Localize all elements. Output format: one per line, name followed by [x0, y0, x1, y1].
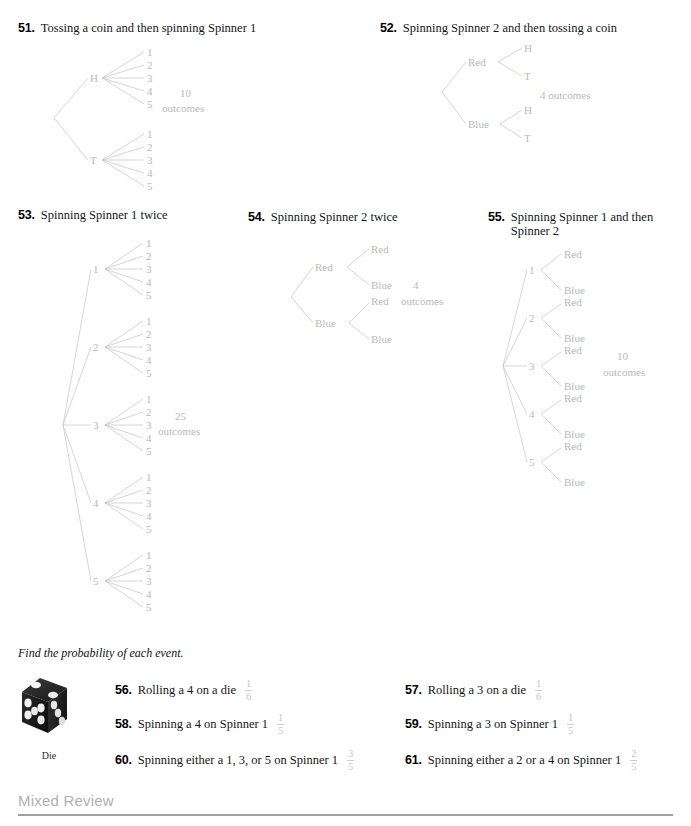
branch-line — [442, 92, 466, 124]
branch-line — [54, 118, 88, 160]
branch-line — [54, 78, 88, 118]
exercise-58: 58.Spinning a 4 on Spinner 115 — [115, 712, 285, 736]
leaf-label: Red — [371, 243, 389, 255]
footer-section-title: Mixed Review — [18, 792, 114, 809]
node-label: 4 — [93, 497, 99, 509]
leaf-label: 4 — [146, 354, 152, 366]
leaf-label: 2 — [146, 484, 152, 496]
exercise-60-number: 60. — [115, 753, 132, 767]
exercise-60-answer: 35 — [346, 748, 355, 772]
node-label-blue: Blue — [468, 118, 489, 130]
leaf-label: 4 — [146, 432, 152, 444]
outcomes-word: outcomes — [162, 102, 204, 114]
fraction-denominator: 6 — [244, 691, 253, 702]
leaf-label: 1 — [147, 46, 153, 58]
leaf-label: Blue — [564, 380, 585, 392]
branch-line — [105, 412, 143, 425]
node-label-red: Red — [315, 261, 333, 273]
leaf-label: 4 — [147, 167, 153, 179]
exercise-57-number: 57. — [405, 683, 422, 697]
tree-diagram-55: 1 Red Blue 2 Red Blue 3 Red Blue 4 Red B… — [495, 248, 685, 498]
fraction-denominator: 5 — [629, 761, 638, 772]
node-label-blue: Blue — [315, 317, 336, 329]
leaf-label: Blue — [564, 476, 585, 488]
fraction-numerator: 2 — [629, 748, 638, 759]
branch-line — [105, 425, 143, 438]
branch-line — [63, 269, 91, 425]
exercise-60-text: Spinning either a 1, 3, or 5 on Spinner … — [138, 753, 338, 767]
leaf-label: 1 — [146, 237, 152, 249]
branch-line — [105, 490, 143, 503]
branch-line — [503, 270, 527, 366]
exercise-57: 57.Rolling a 3 on a die16 — [405, 678, 543, 702]
node-label: 1 — [93, 263, 99, 275]
leaf-label: Red — [371, 295, 389, 307]
exercise-56: 56.Rolling a 4 on a die16 — [115, 678, 253, 702]
footer-divider — [18, 814, 673, 816]
branch-line — [105, 503, 143, 516]
fraction-numerator: 1 — [534, 678, 543, 689]
branch-line — [541, 366, 561, 386]
node-label: 4 — [529, 408, 535, 420]
leaf-label: 5 — [146, 289, 152, 301]
tree-diagram-52: Red H T Blue H T 4 outcomes — [430, 42, 650, 152]
branch-line — [63, 425, 91, 503]
fraction-numerator: 1 — [566, 712, 575, 723]
node-label-t: T — [90, 154, 97, 166]
problem-51-number: 51. — [18, 21, 35, 35]
exercise-59: 59.Spinning a 3 on Spinner 115 — [405, 712, 575, 736]
leaf-label: 2 — [146, 328, 152, 340]
outcomes-label: 4 outcomes — [540, 89, 590, 101]
branch-line — [105, 568, 143, 581]
exercise-56-number: 56. — [115, 683, 132, 697]
fraction-numerator: 3 — [346, 748, 355, 759]
branch-line — [105, 243, 143, 269]
leaf-label: 3 — [146, 575, 152, 587]
problem-52-heading: 52.Spinning Spinner 2 and then tossing a… — [380, 21, 617, 35]
leaf-label: 4 — [146, 588, 152, 600]
leaf-label: Blue — [371, 279, 392, 291]
exercise-58-number: 58. — [115, 717, 132, 731]
leaf-label: 3 — [146, 419, 152, 431]
exercise-61-number: 61. — [405, 753, 422, 767]
exercise-57-answer: 16 — [534, 678, 543, 702]
leaf-label: 3 — [147, 154, 153, 166]
node-label: 2 — [93, 341, 99, 353]
outcomes-word: outcomes — [158, 425, 200, 437]
node-label: 3 — [93, 419, 99, 431]
leaf-label: Blue — [564, 428, 585, 440]
exercise-61-answer: 25 — [629, 748, 638, 772]
branch-line — [500, 110, 522, 124]
problem-53-heading: 53.Spinning Spinner 1 twice — [18, 208, 168, 222]
leaf-label: 4 — [147, 85, 153, 97]
branch-line — [102, 147, 144, 160]
branch-line — [347, 267, 369, 285]
branch-line — [105, 269, 143, 295]
branch-line — [105, 347, 143, 360]
exercise-59-number: 59. — [405, 717, 422, 731]
leaf-label: 5 — [147, 98, 153, 110]
problem-52-number: 52. — [380, 21, 397, 35]
exercise-61-text: Spinning either a 2 or a 4 on Spinner 1 — [428, 753, 621, 767]
leaf-label: H — [524, 42, 532, 54]
branch-line — [105, 269, 143, 282]
branch-line — [102, 65, 144, 78]
branch-line — [105, 581, 143, 594]
leaf-label: 5 — [146, 523, 152, 535]
branch-line — [105, 399, 143, 425]
problem-53-number: 53. — [18, 208, 35, 222]
node-label: 5 — [529, 456, 535, 468]
problem-55-text: Spinning Spinner 1 and then Spinner 2 — [511, 210, 679, 238]
leaf-label: Blue — [564, 332, 585, 344]
leaf-label: 4 — [146, 276, 152, 288]
leaf-label: 1 — [146, 471, 152, 483]
branch-line — [347, 249, 369, 267]
node-label-red: Red — [468, 56, 486, 68]
branch-line — [541, 352, 561, 366]
leaf-label: 5 — [146, 601, 152, 613]
leaf-label: Red — [564, 296, 582, 308]
exercise-61: 61.Spinning either a 2 or a 4 on Spinner… — [405, 748, 638, 772]
leaf-label: 3 — [146, 497, 152, 509]
fraction-denominator: 6 — [534, 691, 543, 702]
node-label: 2 — [529, 312, 535, 324]
